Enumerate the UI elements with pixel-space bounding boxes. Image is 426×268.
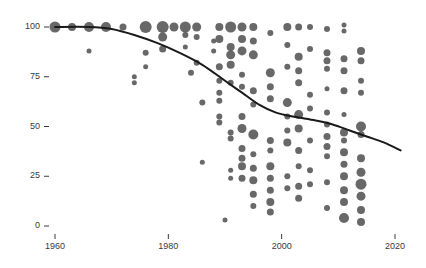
- data-point: [284, 127, 290, 133]
- data-point: [158, 32, 167, 41]
- data-point: [267, 30, 273, 36]
- data-point: [307, 106, 313, 112]
- data-point: [284, 42, 290, 48]
- data-point: [200, 160, 205, 165]
- data-point: [324, 153, 330, 159]
- data-point: [324, 133, 331, 140]
- data-point: [239, 84, 245, 90]
- scatter-chart: 0255075100 1960198020002020: [0, 0, 426, 268]
- y-axis-ticks-group: [44, 27, 49, 226]
- data-point: [266, 162, 274, 170]
- data-point: [324, 143, 331, 150]
- data-point: [283, 138, 291, 146]
- data-point: [250, 203, 256, 209]
- data-point: [307, 181, 313, 187]
- data-point: [132, 80, 137, 85]
- data-point: [357, 47, 365, 55]
- data-point: [215, 35, 223, 43]
- data-point: [341, 137, 347, 143]
- x-axis-tick-label: 1980: [143, 241, 193, 251]
- data-point: [266, 68, 275, 77]
- data-point: [356, 122, 366, 132]
- data-point: [324, 57, 331, 64]
- data-point: [238, 23, 247, 32]
- data-point: [250, 151, 256, 157]
- y-axis-tick-label: 50: [0, 121, 40, 131]
- data-point: [157, 21, 169, 33]
- data-point: [238, 35, 246, 43]
- data-point: [239, 145, 246, 152]
- data-point: [342, 23, 347, 28]
- data-point: [227, 43, 235, 51]
- data-point: [132, 74, 137, 79]
- data-point: [340, 198, 348, 206]
- data-point: [296, 163, 302, 169]
- data-point: [267, 187, 274, 194]
- data-point: [267, 137, 274, 144]
- data-point: [307, 46, 313, 52]
- data-point: [283, 23, 291, 31]
- data-point: [239, 113, 246, 120]
- data-point: [283, 98, 292, 107]
- data-point: [340, 186, 348, 194]
- data-point: [324, 66, 330, 72]
- data-point: [216, 114, 222, 120]
- data-point: [211, 48, 216, 53]
- data-point: [295, 147, 302, 154]
- data-point: [295, 183, 302, 190]
- data-point: [295, 24, 302, 31]
- data-point: [284, 64, 290, 70]
- data-point: [194, 34, 200, 40]
- data-point: [250, 87, 257, 94]
- data-point: [188, 70, 194, 76]
- data-point: [228, 135, 234, 141]
- x-axis-tick-label: 1960: [30, 241, 80, 251]
- data-point: [295, 53, 303, 61]
- data-point: [120, 24, 127, 31]
- data-point: [140, 21, 152, 33]
- data-point: [267, 209, 274, 216]
- plot-area: [0, 0, 426, 268]
- data-point: [284, 173, 290, 179]
- data-point: [215, 23, 223, 31]
- data-point: [250, 191, 257, 198]
- data-point: [295, 195, 302, 202]
- data-point: [357, 206, 365, 214]
- data-point: [307, 24, 313, 30]
- data-point: [248, 129, 258, 139]
- data-point: [180, 22, 191, 33]
- data-point: [341, 55, 348, 62]
- data-point: [356, 179, 367, 190]
- data-point: [267, 83, 274, 90]
- data-point: [341, 87, 348, 94]
- y-axis-tick-label: 75: [0, 71, 40, 81]
- data-point: [170, 23, 179, 32]
- data-point: [239, 175, 246, 182]
- data-point: [307, 167, 313, 173]
- data-point: [357, 168, 366, 177]
- data-point: [226, 50, 235, 59]
- x-axis-ticks-group: [55, 234, 395, 239]
- data-point: [239, 72, 245, 78]
- x-axis-tick-label: 2000: [257, 241, 307, 251]
- data-point: [340, 148, 348, 156]
- data-point: [216, 90, 222, 96]
- data-point: [182, 32, 188, 38]
- data-point: [342, 28, 347, 33]
- y-axis-tick-label: 0: [0, 220, 40, 230]
- data-point: [249, 50, 258, 59]
- data-point: [324, 49, 331, 56]
- data-point: [295, 79, 302, 86]
- data-point: [228, 129, 234, 135]
- data-point: [87, 48, 92, 53]
- data-point: [250, 37, 257, 44]
- data-point: [225, 22, 236, 33]
- data-point: [266, 198, 274, 206]
- data-point: [307, 137, 313, 143]
- data-point: [267, 147, 273, 153]
- data-point: [340, 172, 348, 180]
- data-point: [216, 63, 223, 70]
- data-point: [324, 179, 330, 185]
- x-axis-tick-label: 2020: [370, 241, 420, 251]
- y-axis-tick-label: 100: [0, 21, 40, 31]
